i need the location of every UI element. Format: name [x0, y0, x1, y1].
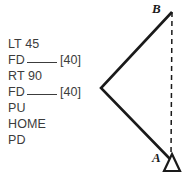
logo-turtle-exercise-figure: LT 45FD[40]RT 90FD[40]PUHOMEPD B A — [0, 0, 191, 177]
dashed-line-b-to-a — [171, 12, 172, 158]
path-segment-b-to-vertex-to-a — [101, 12, 172, 159]
vertex-label-b: B — [152, 1, 161, 17]
vertex-label-a: A — [152, 150, 161, 166]
turtle-path-diagram — [0, 0, 191, 177]
